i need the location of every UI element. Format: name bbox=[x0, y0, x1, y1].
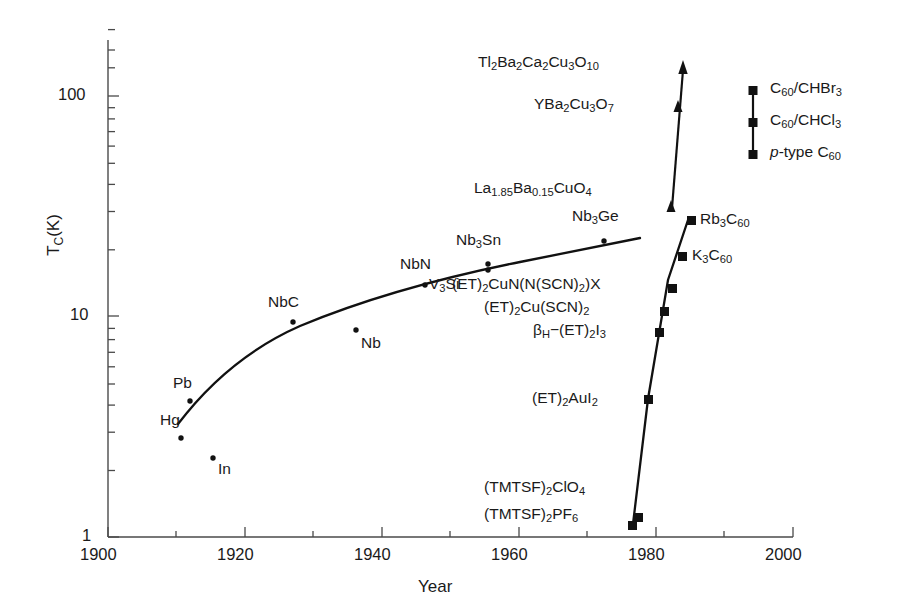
data-point-et2cun bbox=[668, 284, 677, 293]
data-point-nbn bbox=[422, 282, 427, 287]
y-tick-label-1: 1 bbox=[82, 527, 91, 544]
data-point-tmtsf-clo4 bbox=[634, 513, 643, 522]
point-label-k3c60: K3C60 bbox=[692, 247, 732, 263]
point-label-yba2cu3o7: YBa2Cu3O7 bbox=[534, 96, 614, 112]
data-point-tmtsf-pf6 bbox=[628, 521, 637, 530]
data-point-in bbox=[210, 455, 215, 460]
superconductor-tc-chart: 100 10 1 TC(K) 1900 1920 1940 1960 1980 … bbox=[0, 0, 920, 616]
data-point-k3c60 bbox=[678, 252, 687, 261]
data-point-rb3c60 bbox=[687, 216, 696, 225]
y-axis-title-sub: C bbox=[52, 237, 66, 246]
y-axis-title-main: T bbox=[44, 245, 63, 255]
point-label-la185ba015cuo4: La1.85Ba0.15CuO4 bbox=[474, 180, 592, 196]
point-label-beta-h-et2i3: βH−(ET)2I3 bbox=[533, 322, 606, 338]
x-tick-label-1920: 1920 bbox=[217, 546, 254, 563]
x-tick-label-1900: 1900 bbox=[80, 546, 117, 563]
point-label-nb3ge: Nb3Ge bbox=[572, 208, 619, 224]
data-point-et2aui2 bbox=[644, 395, 653, 404]
x-axis-ticks bbox=[108, 527, 793, 537]
point-label-et2cuscn2: (ET)2Cu(SCN)2 bbox=[484, 299, 589, 315]
organic-trend-line bbox=[633, 220, 688, 524]
legend-label-chbr3: C60/CHBr3 bbox=[770, 80, 842, 96]
point-label-et2cun-nscn2-x: (ET)2CuN(N(SCN)2)X bbox=[452, 276, 601, 292]
x-tick-label-1940: 1940 bbox=[354, 546, 391, 563]
conventional-points bbox=[178, 238, 606, 460]
cuprate-arrowhead bbox=[678, 60, 687, 74]
legend-label-chcl3: C60/CHCl3 bbox=[770, 112, 841, 128]
data-point-et2cuscn2 bbox=[660, 307, 669, 316]
legend-marker-chbr3 bbox=[749, 86, 758, 95]
data-point-nb bbox=[353, 327, 358, 332]
legend-marker-ptype bbox=[749, 150, 758, 159]
point-label-in: In bbox=[218, 461, 231, 477]
point-label-hg: Hg bbox=[160, 412, 180, 428]
x-tick-label-1960: 1960 bbox=[491, 546, 528, 563]
y-tick-label-100: 100 bbox=[58, 86, 86, 103]
point-label-tl2ba2ca2cu3o10: Tl2Ba2Ca2Cu3O10 bbox=[478, 54, 599, 70]
point-label-nbc: NbC bbox=[268, 294, 299, 310]
data-point-labacuo bbox=[667, 200, 676, 212]
point-label-nbn: NbN bbox=[400, 256, 431, 272]
point-label-rb3c60: Rb3C60 bbox=[700, 211, 750, 227]
point-label-nb: Nb bbox=[361, 335, 381, 351]
data-point-nb3sn bbox=[485, 261, 490, 266]
data-point-beta-et2i3 bbox=[655, 328, 664, 337]
data-point-nbc bbox=[290, 319, 295, 324]
cuprate-trend-line bbox=[672, 60, 688, 208]
data-point-v3si bbox=[485, 267, 490, 272]
point-label-et2aui2: (ET)2AuI2 bbox=[532, 390, 598, 406]
x-axis-title: Year bbox=[418, 578, 452, 595]
data-point-pb bbox=[187, 398, 192, 403]
legend-markers bbox=[749, 86, 758, 159]
data-point-nb3ge bbox=[601, 238, 606, 243]
y-axis-title: TC(K) bbox=[44, 195, 64, 275]
legend-marker-chcl3 bbox=[749, 118, 758, 127]
data-point-hg bbox=[178, 435, 183, 440]
y-axis-title-unit: (K) bbox=[44, 214, 63, 237]
point-label-pb: Pb bbox=[173, 375, 192, 391]
point-label-nb3sn: Nb3Sn bbox=[456, 232, 501, 248]
legend-label-ptype-c60: p-type C60 bbox=[770, 144, 841, 160]
point-label-tmtsf2clo4: (TMTSF)2ClO4 bbox=[484, 479, 585, 495]
x-tick-label-1980: 1980 bbox=[628, 546, 665, 563]
y-tick-label-10: 10 bbox=[70, 306, 88, 323]
y-axis-ticks bbox=[108, 30, 119, 537]
point-label-tmtsf2pf6: (TMTSF)2PF6 bbox=[484, 506, 578, 522]
x-tick-label-2000: 2000 bbox=[765, 546, 802, 563]
